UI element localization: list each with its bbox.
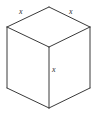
cube-drawing	[0, 0, 98, 117]
edge-label-vertical: x	[52, 66, 56, 74]
cube-figure: x x x	[0, 0, 98, 117]
edge-label-top-left: x	[19, 8, 23, 16]
edge-label-top-right: x	[69, 8, 73, 16]
